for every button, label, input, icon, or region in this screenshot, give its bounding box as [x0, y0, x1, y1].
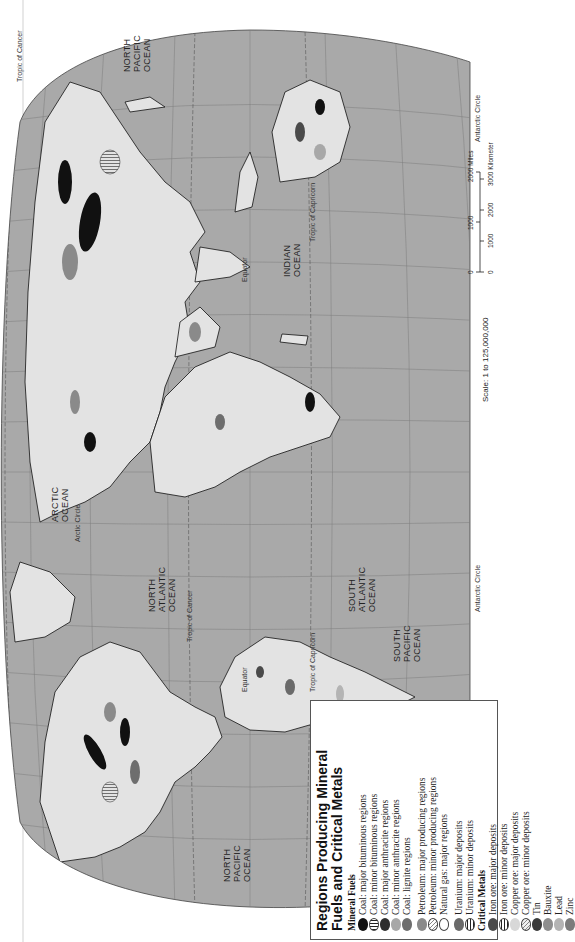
- legend-item: Tin: [531, 709, 542, 931]
- legend-item: Petroleum: minor producing regions: [427, 709, 438, 931]
- scale-km-0: 0: [487, 270, 494, 274]
- label-arctic: ARCTICOCEAN: [50, 487, 70, 522]
- label-north-pacific-east: NORTHPACIFICOCEAN: [122, 35, 152, 72]
- legend-label: Tin: [532, 902, 542, 915]
- label-south-pacific: SOUTHPACIFICOCEAN: [392, 625, 422, 662]
- legend-swatch-icon: [454, 918, 464, 931]
- legend-swatch-icon: [521, 918, 531, 931]
- legend-swatch-icon: [465, 918, 475, 931]
- legend-item: Lead: [553, 709, 564, 931]
- label-equator-east: Equator: [241, 257, 249, 282]
- legend-label: Copper ore: major deposits: [510, 812, 520, 915]
- scale-bar: Scale: 1 to 125,000,000 0 1000 2000 Mile…: [462, 142, 502, 402]
- legend-swatch-icon: [510, 918, 520, 931]
- label-equator: Equator: [241, 667, 249, 692]
- legend-item: Bauxite: [542, 709, 553, 931]
- label-tropic-cancer-east: Tropic of Cancer: [16, 30, 24, 82]
- legend-item: Coal: major bituminous regions: [357, 709, 368, 931]
- legend-label: Natural gas: major regions: [439, 814, 449, 915]
- legend-swatch-icon: [428, 918, 438, 931]
- label-north-pacific-west: NORTHPACIFICOCEAN: [222, 845, 252, 882]
- legend-label: Bauxite: [543, 885, 553, 915]
- legend-label: Iron ore: major deposits: [488, 824, 498, 915]
- legend-swatch-icon: [380, 918, 390, 931]
- legend-swatch-icon: [358, 918, 368, 931]
- legend-swatch-icon: [554, 918, 564, 931]
- legend-item: Coal: major anthracite regions: [379, 709, 390, 931]
- legend-section-critical-metals: Critical Metals: [477, 709, 487, 931]
- legend-item: Petroleum: major producing regions: [416, 709, 427, 931]
- legend-swatch-icon: [439, 918, 449, 931]
- legend-item: Natural gas: major regions: [438, 709, 449, 931]
- legend-item: Coal: minor bituminous regions: [368, 709, 379, 931]
- scale-km-1000: 1000: [487, 233, 494, 248]
- label-indian: INDIANOCEAN: [282, 243, 302, 277]
- legend-label: Petroleum: major producing regions: [417, 778, 427, 915]
- legend-swatch-icon: [499, 918, 509, 931]
- legend-section-mineral-fuels: Mineral Fuels: [347, 709, 357, 931]
- legend-item: Coal: lignite regions: [401, 709, 412, 931]
- legend-swatch-icon: [565, 918, 575, 931]
- scale-text: Scale: 1 to 125,000,000: [481, 317, 490, 402]
- legend-swatch-icon: [532, 918, 542, 931]
- legend-label: Zinc: [565, 898, 575, 915]
- legend-title-line2: Fuels and Critical Metals: [330, 709, 345, 931]
- legend-label: Copper ore: minor deposits: [521, 811, 531, 915]
- label-tropic-cancer: Tropic of Cancer: [186, 590, 194, 642]
- legend-title-line1: Regions Producing Mineral: [315, 709, 330, 931]
- legend-swatch-icon: [369, 918, 379, 931]
- label-arctic-circle: Arctic Circle: [74, 505, 81, 542]
- legend-label: Lead: [554, 896, 564, 915]
- legend-swatch-icon: [402, 918, 412, 931]
- legend-item: Zinc: [564, 709, 575, 931]
- legend-item: Coal: minor anthracite regions: [390, 709, 401, 931]
- legend-swatch-icon: [391, 918, 401, 931]
- legend-label: Coal: major bituminous regions: [358, 794, 368, 915]
- legend-item: Copper ore: major deposits: [509, 709, 520, 931]
- legend-item: Copper ore: minor deposits: [520, 709, 531, 931]
- legend-item: Iron ore: minor deposits: [498, 709, 509, 931]
- legend: Regions Producing Mineral Fuels and Crit…: [310, 700, 498, 940]
- legend-label: Coal: major anthracite regions: [380, 800, 390, 915]
- scale-km-2000: 2000: [487, 202, 494, 217]
- legend-label: Uranium: major deposits: [454, 821, 464, 915]
- legend-swatch-icon: [543, 918, 553, 931]
- label-antarctic-circle-east: Antarctic Circle: [474, 95, 481, 142]
- legend-item: Uranium: major deposits: [453, 709, 464, 931]
- legend-item: Iron ore: major deposits: [487, 709, 498, 931]
- scale-miles-2000: 2000 Miles: [467, 150, 474, 182]
- label-tropic-capricorn-east: Tropic of Capricorn: [309, 183, 317, 242]
- legend-label: Coal: minor bituminous regions: [369, 794, 379, 915]
- legend-fuels-list: Coal: major bituminous regionsCoal: mino…: [357, 709, 475, 931]
- scale-miles-0: 0: [467, 270, 474, 274]
- legend-label: Coal: minor anthracite regions: [391, 799, 401, 915]
- label-tropic-capricorn: Tropic of Capricorn: [309, 633, 317, 692]
- legend-label: Uranium: minor deposits: [465, 820, 475, 915]
- scale-km-3000: 3000 Kilometers: [487, 142, 494, 186]
- label-antarctic-circle: Antarctic Circle: [474, 565, 481, 612]
- legend-label: Petroleum: minor producing regions: [428, 777, 438, 915]
- scale-miles-1000: 1000: [467, 215, 474, 230]
- legend-label: Coal: lignite regions: [402, 837, 412, 915]
- legend-metals-list: Iron ore: major depositsIron ore: minor …: [487, 709, 575, 931]
- legend-swatch-icon: [488, 918, 498, 931]
- legend-swatch-icon: [417, 918, 427, 931]
- legend-item: Uranium: minor deposits: [464, 709, 475, 931]
- legend-label: Iron ore: minor deposits: [499, 823, 509, 915]
